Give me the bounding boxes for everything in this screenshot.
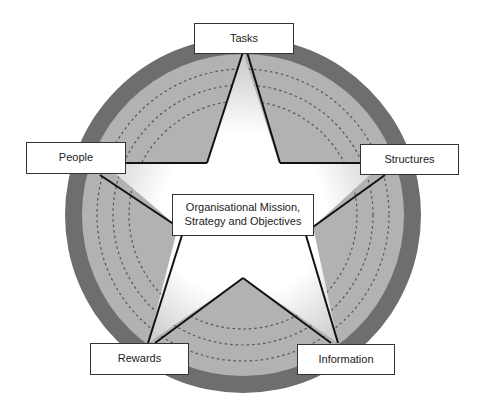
node-label: Rewards: [118, 352, 161, 366]
node-rewards: Rewards: [90, 343, 189, 375]
node-people: People: [26, 142, 126, 174]
node-tasks: Tasks: [194, 23, 294, 54]
center-label-line1: Organisational Mission,: [186, 201, 300, 215]
node-label: Tasks: [230, 32, 258, 46]
node-information: Information: [297, 344, 395, 375]
node-label: People: [59, 151, 93, 165]
node-label: Information: [318, 353, 373, 367]
center-label-line2: Strategy and Objectives: [185, 215, 302, 229]
node-label: Structures: [384, 153, 434, 167]
node-structures: Structures: [360, 144, 459, 175]
center-box: Organisational Mission, Strategy and Obj…: [172, 194, 314, 236]
